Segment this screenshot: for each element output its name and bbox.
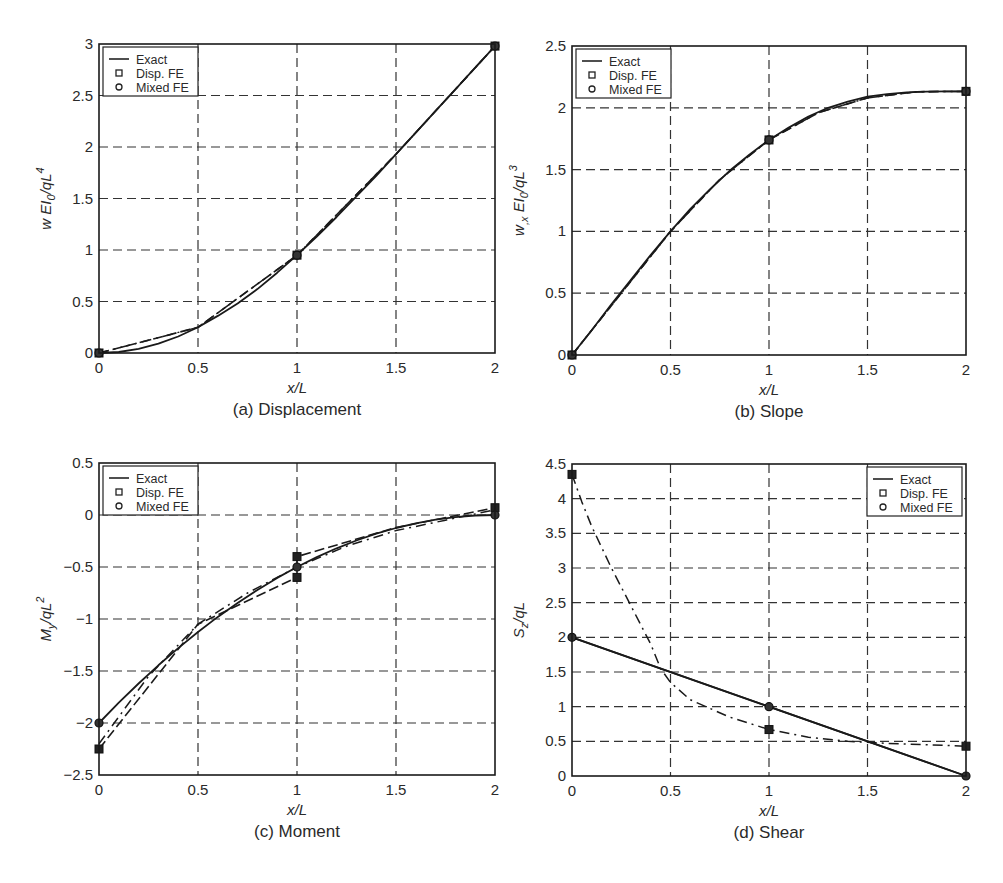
- y-tick-label: −2: [76, 714, 93, 731]
- y-tick-label: 1.5: [72, 190, 93, 207]
- x-tick-label: 2: [491, 359, 499, 376]
- x-tick-label: 0.5: [660, 361, 681, 378]
- y-tick-label: 3: [85, 35, 93, 52]
- y-tick-label: −1.5: [63, 662, 93, 679]
- mixed-fe-marker: [765, 136, 773, 144]
- y-tick-label: 2.5: [545, 594, 566, 611]
- x-tick-label: 0.5: [188, 359, 209, 376]
- y-axis-label: w,x EI0/qL3: [507, 164, 530, 236]
- x-axis-label: x/L: [286, 801, 307, 818]
- mixed-fe-marker: [293, 563, 301, 571]
- y-tick-label: 0: [85, 344, 93, 361]
- legend-entry: Mixed FE: [136, 500, 189, 514]
- y-tick-label: −0.5: [63, 558, 93, 575]
- y-tick-label: 2: [558, 99, 566, 116]
- legend: ExactDisp. FEMixed FE: [103, 47, 198, 96]
- x-tick-label: 1.5: [386, 781, 407, 798]
- y-tick-label: −2.5: [63, 766, 93, 783]
- y-tick-label: 0: [558, 767, 566, 784]
- y-axis-label: My/qL2: [34, 597, 57, 642]
- chart-a: 00.511.5200.511.522.53x/Lw EI0/qL4(a) Di…: [34, 35, 499, 419]
- mixed-fe-marker: [293, 251, 301, 259]
- subfigure-caption: (b) Slope: [735, 402, 804, 421]
- legend-entry: Mixed FE: [609, 83, 662, 97]
- x-tick-label: 0: [568, 361, 576, 378]
- chart-d: 00.511.5200.511.522.533.544.5x/LSz/qL(d)…: [510, 455, 970, 842]
- y-tick-label: 1.5: [545, 161, 566, 178]
- y-tick-label: 0.5: [72, 454, 93, 471]
- x-tick-label: 2: [962, 782, 970, 799]
- figure-footer-caption: [0, 868, 1003, 883]
- x-tick-label: 1: [765, 361, 773, 378]
- x-axis-label: x/L: [758, 802, 779, 819]
- subfigure-caption: (a) Displacement: [233, 400, 362, 419]
- y-axis-label: Sz/qL: [510, 602, 530, 638]
- y-tick-label: 4: [558, 490, 566, 507]
- x-tick-label: 0.5: [660, 782, 681, 799]
- series-disp-fe: [99, 508, 495, 749]
- x-tick-label: 2: [962, 361, 970, 378]
- y-tick-label: 1: [558, 222, 566, 239]
- y-tick-label: 3.5: [545, 524, 566, 541]
- y-tick-label: 2: [85, 138, 93, 155]
- y-tick-label: 2: [558, 628, 566, 645]
- y-tick-label: −1: [76, 610, 93, 627]
- y-tick-label: 2.5: [545, 37, 566, 54]
- x-tick-label: 2: [491, 781, 499, 798]
- y-tick-label: 2.5: [72, 87, 93, 104]
- disp-fe-marker: [293, 573, 301, 581]
- legend: ExactDisp. FEMixed FE: [867, 467, 962, 516]
- x-tick-label: 0: [95, 781, 103, 798]
- x-tick-label: 0.5: [188, 781, 209, 798]
- legend: ExactDisp. FEMixed FE: [103, 466, 198, 515]
- x-tick-label: 1.5: [857, 782, 878, 799]
- mixed-fe-marker: [765, 703, 773, 711]
- disp-fe-marker: [293, 553, 301, 561]
- x-tick-label: 1.5: [386, 359, 407, 376]
- x-tick-label: 1.5: [857, 361, 878, 378]
- legend-entry: Exact: [136, 53, 168, 67]
- y-tick-label: 4.5: [545, 455, 566, 472]
- legend-entry: Disp. FE: [136, 67, 184, 81]
- x-tick-label: 1: [293, 359, 301, 376]
- chart-b: 00.511.5200.511.522.5x/Lw,x EI0/qL3(b) S…: [507, 37, 970, 421]
- y-tick-label: 1.5: [545, 663, 566, 680]
- chart-c: 00.511.52−2.5−2−1.5−1−0.500.5x/LMy/qL2(c…: [34, 454, 499, 841]
- y-tick-label: 0: [85, 506, 93, 523]
- y-tick-label: 0.5: [545, 732, 566, 749]
- y-tick-label: 3: [558, 559, 566, 576]
- y-axis-label: w EI0/qL4: [34, 167, 57, 229]
- x-tick-label: 0: [568, 782, 576, 799]
- y-tick-label: 1: [558, 698, 566, 715]
- y-tick-label: 0.5: [545, 284, 566, 301]
- y-tick-label: 1: [85, 241, 93, 258]
- subfigure-caption: (d) Shear: [734, 823, 805, 842]
- y-tick-label: 0: [558, 346, 566, 363]
- legend-entry: Disp. FE: [136, 486, 184, 500]
- x-axis-label: x/L: [286, 379, 307, 396]
- legend-entry: Exact: [136, 472, 168, 486]
- x-tick-label: 0: [95, 359, 103, 376]
- subfigure-caption: (c) Moment: [254, 822, 340, 841]
- legend-entry: Exact: [609, 55, 641, 69]
- y-tick-label: 0.5: [72, 293, 93, 310]
- legend: ExactDisp. FEMixed FE: [576, 49, 671, 98]
- legend-entry: Disp. FE: [900, 487, 948, 501]
- x-axis-label: x/L: [758, 381, 779, 398]
- legend-entry: Mixed FE: [136, 81, 189, 95]
- legend-entry: Disp. FE: [609, 69, 657, 83]
- legend-entry: Exact: [900, 473, 932, 487]
- x-tick-label: 1: [765, 782, 773, 799]
- legend-entry: Mixed FE: [900, 501, 953, 515]
- figure-canvas: 00.511.5200.511.522.53x/Lw EI0/qL4(a) Di…: [0, 0, 1003, 883]
- x-tick-label: 1: [293, 781, 301, 798]
- disp-fe-marker: [765, 726, 773, 734]
